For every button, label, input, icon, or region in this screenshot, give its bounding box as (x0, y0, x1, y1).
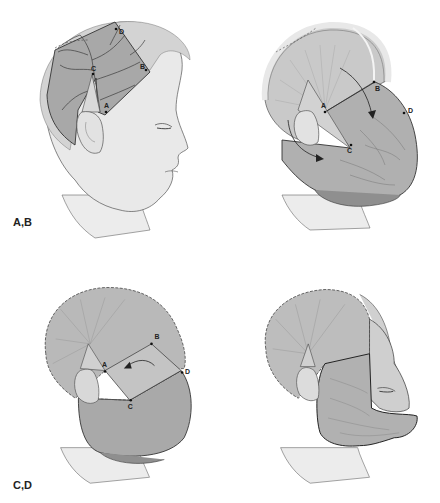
panel-c: B A C D C,D (0, 250, 220, 500)
head-illustration-b: B A C D (220, 0, 440, 250)
point-label: D (119, 28, 124, 35)
point-label: C (128, 403, 133, 410)
panel-group-label: A,B (13, 216, 32, 228)
point-label: C (91, 65, 96, 72)
point-label: D (185, 368, 190, 375)
point-label: B (375, 85, 380, 92)
panel-group-label: C,D (13, 479, 32, 491)
point-label: B (140, 63, 145, 70)
point-label: D (408, 107, 413, 114)
head-illustration-d (220, 250, 440, 500)
head-illustration-a: D B C A (0, 0, 220, 250)
panel-b: B A C D (220, 0, 440, 250)
head-illustration-c: B A C D (0, 250, 220, 500)
point-label: A (102, 361, 107, 368)
point-label: A (104, 102, 109, 109)
point-label: B (154, 333, 159, 340)
point-label: A (321, 102, 326, 109)
point-label: C (347, 147, 352, 154)
ear (294, 111, 319, 146)
panel-a: D B C A A,B (0, 0, 220, 250)
panel-d (220, 250, 440, 500)
